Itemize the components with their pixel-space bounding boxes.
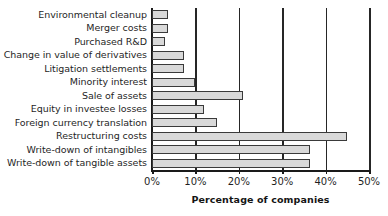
x-axis-tick-label: 0%: [144, 176, 160, 187]
x-axis-tick: [326, 170, 328, 174]
category-label: Minority interest: [70, 77, 147, 87]
x-axis-tick-label: 40%: [314, 176, 336, 187]
bar: [152, 118, 217, 127]
bar: [152, 64, 184, 73]
bar: [152, 132, 347, 141]
bar: [152, 10, 168, 19]
x-axis-tick: [282, 170, 284, 174]
bar: [152, 91, 243, 100]
x-axis-tick: [195, 170, 197, 174]
category-label: Equity in investee losses: [31, 104, 147, 114]
x-axis-tick-label: 20%: [228, 176, 250, 187]
x-axis-tick: [239, 170, 241, 174]
category-axis-labels: Environmental cleanupMerger costsPurchas…: [0, 8, 150, 170]
x-axis-tick: [152, 170, 154, 174]
bar: [152, 159, 310, 168]
x-axis-tick-label: 50%: [358, 176, 380, 187]
category-label: Sale of assets: [82, 91, 147, 101]
x-axis-tick-label: 30%: [271, 176, 293, 187]
x-axis-tick: [369, 170, 371, 174]
category-label: Write-down of intangibles: [27, 145, 147, 155]
category-label: Foreign currency translation: [15, 118, 147, 128]
bar: [152, 24, 168, 33]
category-label: Environmental cleanup: [38, 10, 147, 20]
category-label: Purchased R&D: [74, 37, 147, 47]
x-axis-line: [151, 170, 370, 172]
category-label: Write-down of tangible assets: [7, 158, 147, 168]
x-axis-title: Percentage of companies: [152, 194, 369, 205]
category-label: Change in value of derivatives: [4, 50, 147, 60]
category-label: Litigation settlements: [44, 64, 147, 74]
category-label: Restructuring costs: [56, 131, 147, 141]
bar-chart: Environmental cleanupMerger costsPurchas…: [0, 0, 388, 216]
bar: [152, 145, 310, 154]
plot-area: [152, 8, 369, 170]
bar: [152, 105, 204, 114]
bar: [152, 37, 165, 46]
bar: [152, 78, 195, 87]
x-axis-tick-label: 10%: [184, 176, 206, 187]
gridline: [369, 8, 371, 170]
gridline: [326, 8, 328, 170]
bar: [152, 51, 184, 60]
category-label: Merger costs: [86, 23, 147, 33]
